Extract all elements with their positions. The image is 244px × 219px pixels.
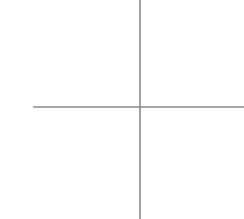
axes bbox=[33, 0, 244, 219]
coordinate-plane bbox=[0, 0, 244, 219]
